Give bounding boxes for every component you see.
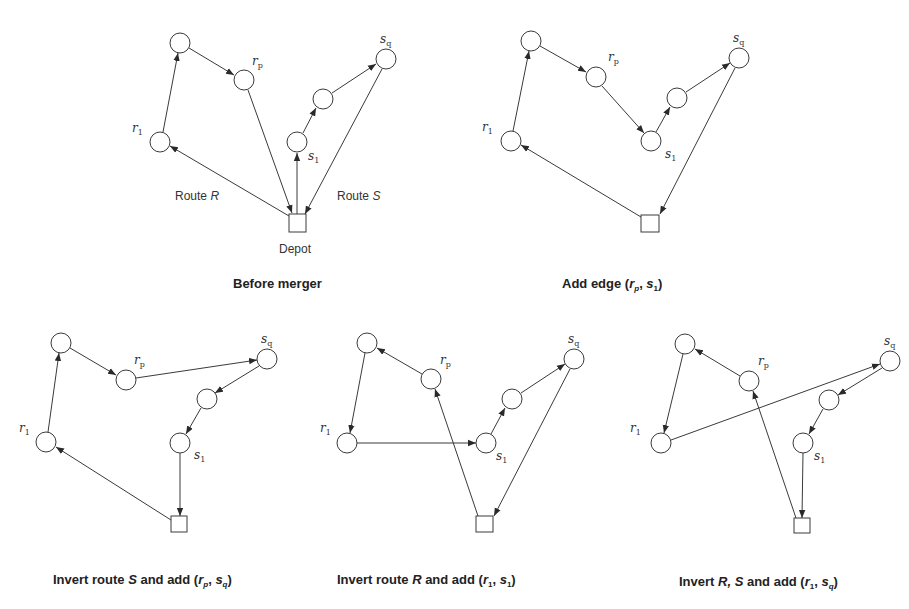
label-s1: s1 [308, 149, 319, 165]
edge-rp-to-s1 [602, 86, 644, 133]
edge-r1-to-top [163, 53, 178, 132]
edge-depot-to-rp [435, 389, 478, 516]
label-rp: rp [252, 54, 263, 70]
label-s1: s1 [665, 147, 676, 163]
node-r-top [675, 334, 695, 354]
node-rp [739, 371, 759, 391]
node-s-mid [197, 389, 217, 409]
edge-rp-to-sq [136, 360, 257, 378]
node-s-mid [313, 89, 333, 109]
node-sq [729, 48, 749, 68]
node-rp [421, 369, 441, 389]
label-r1: r1 [19, 421, 30, 437]
edge-s1-to-mid [491, 408, 505, 434]
edge-rp-to-top [695, 349, 740, 376]
label-s1: s1 [194, 448, 205, 464]
panel-add-edge: r1 rp s1 sq Add edge (rp, s1) [482, 31, 749, 293]
node-s-mid [667, 88, 687, 108]
node-sq [564, 349, 584, 369]
node-s-mid [502, 389, 522, 409]
edge-top-to-r1 [350, 353, 365, 433]
node-r-top [357, 333, 377, 353]
depot-square [794, 518, 810, 533]
depot-square [641, 215, 659, 232]
caption-before-merger: Before merger [233, 276, 322, 291]
node-sq [880, 351, 900, 371]
label-sq: sq [733, 31, 744, 47]
edge-mid-to-s1 [186, 408, 201, 434]
label-sq: sq [380, 32, 391, 48]
label-sq: sq [884, 334, 895, 350]
node-rp [116, 370, 136, 390]
edge-mid-to-s1 [809, 409, 823, 434]
node-s1 [170, 433, 190, 453]
edge-sq-to-mid [215, 366, 259, 393]
edge-r1-to-top [513, 51, 529, 131]
label-s1: s1 [496, 449, 507, 465]
node-rp [586, 67, 606, 87]
edge-rp-to-top [377, 348, 422, 374]
edge-mid-to-sq [686, 63, 730, 92]
node-r1 [651, 433, 671, 453]
label-rp: rp [134, 353, 145, 369]
node-r1 [501, 131, 521, 151]
edge-rp-to-depot [248, 90, 292, 213]
node-r1 [337, 433, 357, 453]
label-depot: Depot [279, 242, 312, 256]
caption-invert-s: Invert route S and add (rp, sq) [53, 572, 232, 589]
edge-depot-to-r1 [521, 145, 641, 217]
edge-mid-to-sq [521, 364, 565, 393]
caption-invert-r: Invert route R and add (r1, s1) [337, 572, 516, 589]
node-r1 [150, 132, 170, 152]
label-r1: r1 [482, 120, 493, 136]
edge-depot-to-r1 [170, 146, 289, 216]
panel-invert-r: r1 rp s1 sq Invert route R and add (r1, … [320, 332, 584, 589]
node-sq [257, 349, 277, 369]
panel-before-merger: r1 rp s1 sq Route R Route S Depot Before… [132, 32, 396, 291]
label-sq: sq [568, 332, 579, 348]
label-rp: rp [440, 353, 451, 369]
edge-s1-to-mid [656, 107, 670, 132]
depot-square [171, 516, 187, 532]
panel-invert-rs: r1 rp s1 sq Invert R, S and add (r1, sq) [630, 334, 900, 591]
edge-depot-to-r1 [56, 447, 171, 520]
node-sq [376, 49, 396, 69]
label-sq: sq [261, 332, 272, 348]
node-s-mid [819, 390, 839, 410]
edge-top-to-rp [540, 46, 586, 72]
label-route-r: Route R [175, 189, 219, 203]
panel-invert-s: r1 rp s1 sq Invert route S and add (rp, … [19, 332, 277, 589]
depot-square [476, 516, 493, 532]
node-r-top [170, 33, 190, 53]
label-s1: s1 [814, 449, 825, 465]
node-rp [234, 70, 254, 90]
depot-square [289, 214, 306, 232]
node-r1 [36, 432, 56, 452]
label-rp: rp [758, 354, 769, 370]
label-r1: r1 [320, 421, 331, 437]
edge-depot-to-rp [753, 391, 796, 518]
label-r1: r1 [132, 121, 143, 137]
label-r1: r1 [630, 421, 641, 437]
node-r-top [51, 333, 71, 353]
edge-mid-to-sq [332, 64, 376, 93]
edge-s1-to-depot [802, 453, 803, 518]
edge-r1-to-sq [671, 364, 880, 440]
label-route-s: Route S [337, 189, 380, 203]
route-merge-diagram: r1 rp s1 sq Route R Route S Depot Before… [0, 0, 909, 609]
edge-sq-to-mid [838, 368, 882, 395]
edge-top-to-r1 [664, 354, 683, 433]
node-s1 [287, 132, 307, 152]
node-r-top [521, 31, 541, 51]
edge-top-to-rp [189, 48, 234, 75]
edge-top-to-rp [70, 348, 116, 375]
edge-s1-to-mid [303, 108, 316, 133]
caption-invert-rs: Invert R, S and add (r1, sq) [679, 574, 838, 591]
label-rp: rp [608, 50, 619, 66]
caption-add-edge: Add edge (rp, s1) [562, 276, 662, 293]
node-s1 [476, 433, 496, 453]
edge-r1-to-top [48, 353, 59, 432]
node-s1 [793, 433, 813, 453]
node-s1 [641, 131, 661, 151]
